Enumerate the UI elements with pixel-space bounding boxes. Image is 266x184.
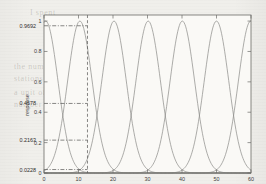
membership-function-chart: 00.20.40.60.81 0102030405060 0.96920.457… bbox=[0, 0, 266, 184]
x-tick-label: 20 bbox=[110, 176, 116, 182]
y-tick-label: 0 bbox=[39, 170, 42, 176]
annotation-label-3: 0.0228 bbox=[20, 167, 37, 173]
x-tick-labels: 0102030405060 bbox=[43, 176, 255, 182]
x-tick-label: 30 bbox=[145, 176, 151, 182]
annotation-label-2: 0.2163 bbox=[20, 137, 37, 143]
plot-background bbox=[44, 15, 251, 173]
x-tick-label: 60 bbox=[248, 176, 254, 182]
y-axis-title: response bbox=[24, 94, 30, 115]
x-tick-label: 50 bbox=[214, 176, 220, 182]
y-tick-label: 0.4 bbox=[34, 109, 42, 115]
x-tick-label: 0 bbox=[43, 176, 46, 182]
y-tick-labels: 00.20.40.60.81 bbox=[34, 18, 42, 176]
x-tick-label: 40 bbox=[179, 176, 185, 182]
x-tick-label: 10 bbox=[76, 176, 82, 182]
y-tick-label: 0.6 bbox=[34, 79, 42, 85]
y-tick-label: 1 bbox=[39, 18, 42, 24]
y-tick-label: 0.8 bbox=[34, 48, 42, 54]
chart-svg: 00.20.40.60.81 0102030405060 0.96920.457… bbox=[0, 0, 266, 184]
annotation-label-0: 0.9692 bbox=[20, 23, 37, 29]
